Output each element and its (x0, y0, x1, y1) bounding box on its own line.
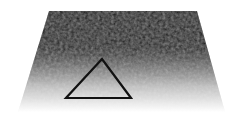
diagram-canvas (0, 0, 237, 120)
figure (0, 0, 237, 120)
gradient-plane (18, 11, 225, 112)
